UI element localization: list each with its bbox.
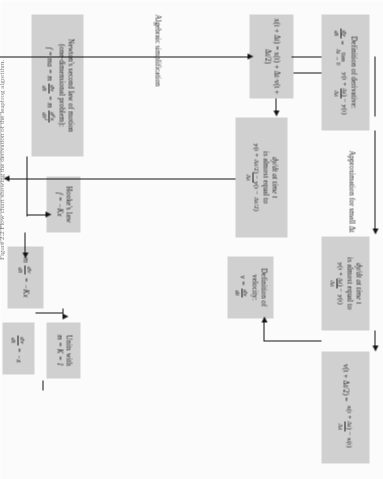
box-definition-of-derivative: Definition of derivative: dy dt = lim Δt…: [321, 14, 369, 130]
dydt-forward-line2: is almost equal to: [344, 257, 353, 309]
connector-hooke-down: [26, 214, 46, 215]
hooke-line2: f = −Kx: [54, 192, 63, 216]
v-half-step-equation: v(t + Δt/2) = x(t + Δt) − x(t) Δt: [337, 364, 353, 451]
box-minus-x-equals-centered-v: −x(t) = v(t + Δt/2) − v(t − Δt/2) Δt: [0, 112, 1, 244]
connector-vupdate-to-xupdate: [0, 56, 249, 57]
dydt-centered-line1: dy/dt at time t: [269, 156, 278, 197]
box-v-half-step: v(t + Δt/2) = x(t + Δt) − x(t) Δt: [321, 351, 369, 463]
dv-dt-fraction-newton: dv dt: [40, 83, 56, 94]
newton-equation: f = ma = m dv dt = m d²x dt²: [40, 47, 56, 124]
connector-vhalf-to-xupdate-h: [374, 56, 375, 116]
units-line2: m = K = 1: [54, 334, 63, 365]
equals-sign: =: [336, 40, 345, 44]
box-dvdt-equals-minus-x: dv dt = −x: [2, 322, 34, 374]
units-line1: Units with: [63, 334, 72, 365]
label-approximation-for-small-dt: Approximation for small Δt: [346, 150, 355, 216]
figure-canvas: Definition of derivative: dy dt = lim Δt…: [0, 0, 383, 479]
dydt-forward-line1: dy/dt at time t: [353, 262, 362, 303]
d2x-dt2-fraction: d²x dt²: [40, 109, 56, 122]
limit-operator: lim Δt → 0: [334, 47, 347, 67]
connector-velocity-to-vhalf: [263, 340, 321, 341]
box-dydt-centered-difference: dy/dt at time t is almost equal to y(t +…: [235, 117, 287, 237]
box-units-with-m-k-1: Units with m = K = 1: [46, 322, 80, 378]
arrowhead-hooke-to-mdvdt: [22, 252, 28, 258]
box-dydt-forward-difference: dy/dt at time t is almost equal to y(t +…: [321, 236, 369, 330]
dydt-centered-fraction: y(t + Δt/2) − y(t − Δt/2) Δt: [244, 141, 260, 213]
connector-mdvdt-up: [35, 312, 63, 313]
dx-dt-fraction: dx dt: [233, 287, 249, 298]
dv-dt-fraction-mdvdt: dv dt: [17, 264, 33, 275]
hooke-line1: Hooke's law: [63, 186, 72, 223]
connector-centered-to-minusx: [7, 178, 235, 179]
dydt-centered-line2: is almost equal to: [260, 151, 269, 203]
velocity-equation: v = dx dt: [233, 275, 249, 299]
v-half-step-fraction: x(t + Δt) − x(t) Δt: [337, 403, 353, 450]
x-update-text: x(t + Δt) = x(t) + Δt·v(t + Δt/2): [262, 17, 280, 95]
newton-title-line1: Newton's second law of motion: [65, 38, 74, 132]
arrowhead-mdvdt-to-units: [62, 313, 68, 319]
arrowhead-forward-to-vhalf: [372, 345, 378, 351]
arrowhead-derivative-to-forward: [372, 228, 378, 234]
arrowhead-centered-to-minusx: [3, 175, 9, 181]
connector-vhalf-to-xupdate: [291, 56, 321, 57]
m-dvdt-equation: m dv dt = −Kx: [17, 257, 33, 297]
box-definition-of-velocity: Definition of velocity: v = dx dt: [227, 256, 273, 318]
connector-velocity-to-vhalf-h: [263, 322, 264, 341]
arrowhead-velocity-to-vhalf: [261, 316, 267, 322]
connector-newton-to-hooke: [26, 156, 27, 216]
label-algebraic-simplification: Algebraic simplification: [152, 14, 161, 174]
arrowhead-vupdate-to-xupdate: [247, 53, 253, 59]
difference-quotient: y(t + Δt) − y(t) Δt: [333, 70, 349, 117]
connector-hooke-to-mdvdt: [24, 232, 25, 254]
connector-units-to-dvdt: [42, 380, 43, 390]
dvdt-equation: dv dt = −x: [10, 334, 26, 363]
box-newtons-second-law: Newton's second law of motion (one-dimen…: [31, 14, 83, 156]
dv-dt-fraction-simple: dv dt: [10, 335, 26, 346]
arrowhead-newton-to-hooke: [45, 211, 51, 217]
derivative-equation: dy dt = lim Δt → 0 y(t + Δt) − y(t) Δt: [333, 27, 349, 118]
velocity-line2: velocity:: [249, 274, 258, 300]
dy-dt-fraction: dy dt: [333, 28, 349, 39]
box-hookes-law: Hooke's law f = −Kx: [46, 176, 80, 232]
box-x-update: x(t + Δt) = x(t) + Δt·v(t + Δt/2): [249, 14, 293, 98]
velocity-line1: Definition of: [258, 268, 267, 307]
arrowhead-derivative-to-centered: [273, 110, 279, 116]
dydt-forward-fraction: y(t + Δt) − y(t) Δt: [328, 260, 344, 307]
derivative-title: Definition of derivative:: [348, 36, 357, 108]
connector-derivative-to-forward: [374, 130, 375, 230]
connector-forward-to-vhalf: [374, 330, 375, 346]
